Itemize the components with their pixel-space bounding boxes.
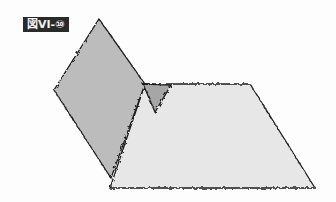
trapezoid-shape — [110, 84, 315, 188]
tessellation-diagram — [0, 0, 336, 202]
